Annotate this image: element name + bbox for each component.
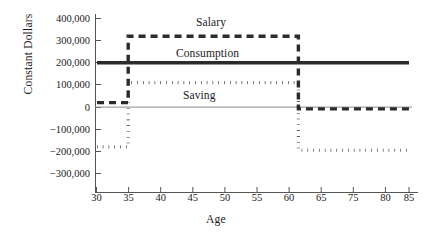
chart-figure: Constant Dollars 400,000 300,000 200,000… <box>0 0 432 237</box>
y-axis-ticks <box>96 19 102 174</box>
series-label-salary: Salary <box>196 16 226 28</box>
series-line-saving-seg2 <box>97 83 409 151</box>
x-axis-title: Age <box>0 213 432 225</box>
x-tick-label: 85 <box>389 192 429 203</box>
series-line-salary <box>97 36 409 109</box>
series-label-consumption: Consumption <box>176 47 239 59</box>
series-label-saving: Saving <box>183 89 216 101</box>
